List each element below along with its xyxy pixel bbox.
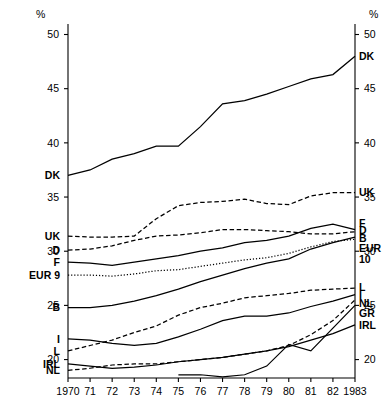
series-line-f [68, 224, 355, 265]
series-line-dk [68, 56, 355, 175]
series-label-right-gr: GR [359, 307, 375, 319]
x-tick-label: 72 [106, 385, 118, 397]
x-tick-label: 75 [173, 385, 185, 397]
chart-container: %%20202525303035354040454550501970717273… [0, 0, 392, 416]
x-tick-label: 73 [128, 385, 140, 397]
series-label-right-eur-10-line2: 10 [359, 253, 371, 265]
series-label-right-uk: UK [359, 186, 375, 198]
y-tick-label-left: 40 [47, 137, 59, 149]
series-line-nl [68, 300, 355, 370]
y-axis-unit-label-right: % [369, 8, 378, 20]
x-tick-label: 76 [195, 385, 207, 397]
series-label-left-uk: UK [45, 230, 61, 242]
x-tick-label: 74 [150, 385, 162, 397]
y-tick-label-right: 50 [364, 28, 376, 40]
series-line-i [68, 295, 355, 346]
y-tick-label-left: 50 [47, 28, 59, 40]
series-label-right-irl: IRL [359, 319, 377, 331]
y-axis-unit-label-left: % [36, 8, 45, 20]
series-label-right-l: L [359, 281, 366, 293]
x-tick-label: 81 [305, 385, 317, 397]
series-line-uk [68, 193, 355, 237]
series-label-left-eur-9: EUR 9 [29, 269, 60, 281]
y-tick-label-right: 40 [364, 137, 376, 149]
y-tick-label-left: 35 [47, 191, 59, 203]
series-line-b [68, 237, 355, 307]
x-tick-label: 79 [261, 385, 273, 397]
series-line-l [68, 288, 355, 351]
series-label-left-nl: NL [46, 364, 61, 376]
x-tick-label: 1983 [343, 385, 367, 397]
y-tick-label-right: 20 [364, 353, 376, 365]
series-label-left-l: L [54, 345, 61, 357]
series-label-left-d: D [52, 244, 60, 256]
x-tick-label: 77 [217, 385, 229, 397]
x-tick-label: 1970 [56, 385, 80, 397]
series-label-left-i: I [57, 333, 60, 345]
series-label-left-f: F [54, 256, 61, 268]
series-label-right-dk: DK [359, 50, 375, 62]
series-label-left-b: B [52, 301, 60, 313]
series-label-right-b: B [359, 232, 367, 244]
series-line-irl [68, 325, 355, 368]
y-tick-label-right: 45 [364, 82, 376, 94]
series-line-eur-9 [68, 239, 355, 276]
line-chart: %%20202525303035354040454550501970717273… [0, 0, 392, 416]
x-tick-label: 71 [84, 385, 96, 397]
x-tick-label: 80 [283, 385, 295, 397]
x-tick-label: 78 [239, 385, 251, 397]
x-tick-label: 82 [327, 385, 339, 397]
series-line-d [68, 230, 355, 251]
y-tick-label-left: 45 [47, 82, 59, 94]
series-label-right-f: F [359, 217, 366, 229]
series-label-left-dk: DK [45, 169, 61, 181]
